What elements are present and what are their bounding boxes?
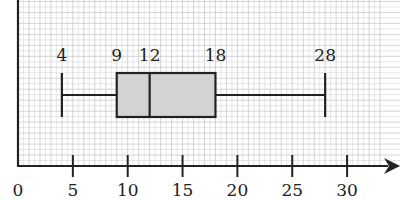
x-tick-label: 20 <box>227 180 249 200</box>
x-tick-label: 5 <box>67 180 78 200</box>
value-label: 28 <box>314 45 336 65</box>
box-plot <box>62 73 325 117</box>
x-tick-label: 30 <box>336 180 358 200</box>
x-tick-label: 0 <box>13 180 24 200</box>
value-label: 12 <box>139 45 161 65</box>
value-label: 4 <box>56 45 67 65</box>
value-label: 9 <box>111 45 122 65</box>
value-label: 18 <box>205 45 227 65</box>
interquartile-box <box>117 73 216 117</box>
x-tick-label: 25 <box>281 180 303 200</box>
x-tick-label: 15 <box>172 180 194 200</box>
box-plot-chart: 051015202530 49121828 <box>0 0 400 200</box>
x-tick-label: 10 <box>117 180 139 200</box>
